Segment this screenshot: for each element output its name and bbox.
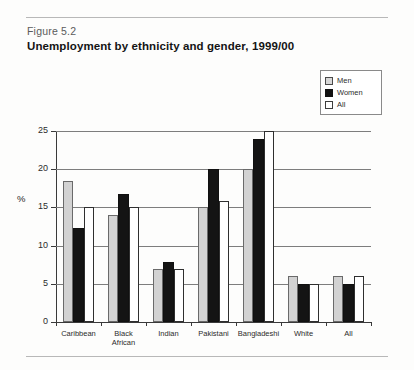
bar-all <box>129 207 139 322</box>
bar-women <box>343 284 353 322</box>
bar-group <box>146 131 191 322</box>
bar-all <box>84 207 94 322</box>
bar-women <box>298 284 308 322</box>
bar-all <box>354 276 364 322</box>
y-tick-label: 25 <box>26 125 48 135</box>
bar-all <box>174 269 184 322</box>
x-axis-line <box>56 322 371 323</box>
x-tick-mark <box>281 322 282 326</box>
x-tick-mark <box>371 322 372 326</box>
bar-group <box>101 131 146 322</box>
bar-all <box>219 201 229 322</box>
bar-group <box>191 131 236 322</box>
bar-group <box>56 131 101 322</box>
chart-plot-area: % 0510152025 CaribbeanBlackAfricanIndian… <box>0 0 414 370</box>
y-tick-label: 20 <box>26 163 48 173</box>
bar-women <box>253 139 263 322</box>
bar-all <box>264 131 274 322</box>
bar-men <box>243 169 253 322</box>
figure-page: Figure 5.2 Unemployment by ethnicity and… <box>0 0 414 370</box>
bar-group <box>236 131 281 322</box>
bar-group <box>281 131 326 322</box>
bar-men <box>333 276 343 322</box>
bar-men <box>288 276 298 322</box>
y-axis-label: % <box>17 193 25 204</box>
bar-men <box>153 269 163 322</box>
bar-group <box>326 131 371 322</box>
x-category-label: All <box>326 329 371 338</box>
bar-series-container <box>56 131 371 322</box>
y-tick-label: 15 <box>26 201 48 211</box>
y-tick-label: 10 <box>26 240 48 250</box>
x-category-label: Indian <box>146 329 191 338</box>
x-tick-mark <box>101 322 102 326</box>
bar-women <box>73 228 83 322</box>
bar-all <box>309 284 319 322</box>
y-tick-label: 0 <box>26 316 48 326</box>
x-tick-mark <box>326 322 327 326</box>
x-tick-mark <box>56 322 57 326</box>
x-category-label: White <box>281 329 326 338</box>
x-category-label: BlackAfrican <box>101 329 146 347</box>
x-category-label: Bangladeshi <box>236 329 281 338</box>
bar-men <box>63 181 73 322</box>
bar-women <box>208 169 218 322</box>
x-category-label: Caribbean <box>56 329 101 338</box>
bar-men <box>198 207 208 322</box>
x-tick-mark <box>236 322 237 326</box>
x-tick-mark <box>146 322 147 326</box>
x-tick-mark <box>191 322 192 326</box>
bar-men <box>108 215 118 322</box>
bar-women <box>163 262 173 322</box>
y-tick-label: 5 <box>26 278 48 288</box>
x-category-label: Pakistani <box>191 329 236 338</box>
bar-women <box>118 194 128 322</box>
